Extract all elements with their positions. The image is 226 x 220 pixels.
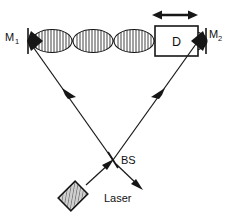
mirror-m2-label: M <box>209 28 218 40</box>
label-m2: M 2 <box>209 28 222 43</box>
figure-canvas: D <box>0 0 226 220</box>
laser-input-beam <box>86 159 114 185</box>
laser-source-body[interactable] <box>58 181 88 211</box>
optical-cavity-diagram: D <box>0 0 226 220</box>
mirror-m1-label: M <box>5 31 14 43</box>
mirror-m1-subscript: 1 <box>15 37 19 46</box>
translation-double-arrow-icon <box>152 10 198 19</box>
label-m1: M 1 <box>5 31 19 46</box>
standing-wave-lobe-2 <box>73 29 113 53</box>
beam-splitter-label: BS <box>121 154 136 166</box>
beam-arm-left <box>31 44 113 160</box>
laser-label: Laser <box>104 192 132 204</box>
mirror-m2-subscript: 2 <box>218 34 222 43</box>
element-d-label: D <box>172 35 181 49</box>
standing-wave-lobe-3 <box>114 29 154 53</box>
output-beam <box>116 164 143 190</box>
beam-arm-right <box>113 44 196 160</box>
